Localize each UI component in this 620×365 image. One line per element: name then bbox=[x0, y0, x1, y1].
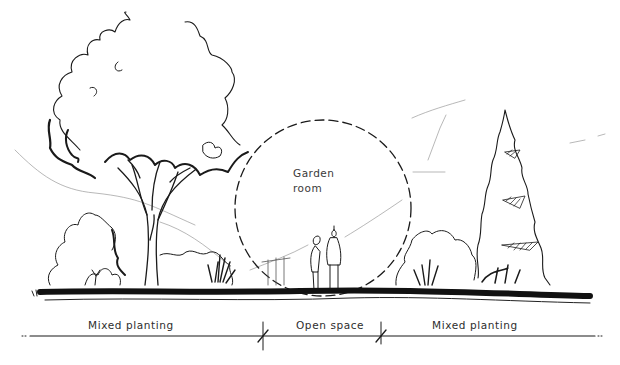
two-people bbox=[311, 226, 341, 290]
garden-room-circle bbox=[235, 120, 411, 296]
tree-canopy-outline bbox=[54, 12, 240, 150]
large-deciduous-tree bbox=[49, 12, 248, 178]
conifer-tree bbox=[477, 110, 550, 285]
tree-trunk bbox=[118, 160, 195, 285]
zone-label-left: Mixed planting bbox=[88, 319, 174, 331]
shrub-mass-left bbox=[48, 213, 235, 285]
garden-room-label-line1: Garden bbox=[293, 166, 334, 181]
garden-room-label: Garden room bbox=[293, 166, 334, 196]
person-right bbox=[327, 226, 341, 290]
person-left bbox=[311, 236, 320, 290]
fence bbox=[262, 257, 290, 285]
zone-label-right: Mixed planting bbox=[432, 319, 518, 331]
zone-label-center: Open space bbox=[296, 319, 364, 331]
shrub-mass-right bbox=[396, 231, 476, 285]
ground-underline bbox=[45, 298, 590, 303]
garden-room-label-line2: room bbox=[293, 181, 334, 196]
